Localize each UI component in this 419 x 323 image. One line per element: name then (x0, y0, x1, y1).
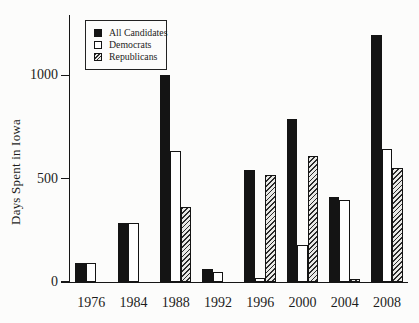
bar-chart-figure: Days Spent in Iowa 050010001976198419881… (0, 0, 419, 323)
y-tick-label-0: 0 (20, 275, 58, 289)
y-tick-mark-1000 (61, 75, 69, 77)
bar-1984-all-candidates (118, 223, 129, 282)
x-tick-label-1988: 1988 (154, 296, 198, 310)
y-tick-label-500: 500 (20, 172, 58, 186)
legend-label: Republicans (109, 52, 157, 62)
bar-2008-all-candidates (371, 35, 382, 282)
bar-2004-republicans (350, 279, 361, 282)
legend: All Candidates Democrats Republicans (85, 20, 167, 70)
x-tick-label-2004: 2004 (323, 296, 367, 310)
legend-label: All Candidates (109, 28, 168, 38)
x-tick-label-1992: 1992 (196, 296, 240, 310)
legend-item-all-candidates: All Candidates (94, 28, 166, 38)
bar-1992-all-candidates (202, 269, 213, 282)
bar-1992-democrats (213, 272, 224, 282)
bar-2008-democrats (382, 149, 393, 282)
bar-2008-republicans (392, 168, 403, 282)
bar-1984-democrats (128, 223, 139, 282)
bar-1996-all-candidates (244, 170, 255, 282)
bar-1996-democrats (255, 278, 266, 282)
x-tick-label-2008: 2008 (365, 296, 409, 310)
solid-black-swatch-icon (94, 29, 102, 37)
hatched-swatch-icon (94, 53, 102, 61)
bar-1988-all-candidates (160, 75, 171, 282)
bar-2000-democrats (297, 245, 308, 282)
y-tick-mark-0 (61, 281, 69, 283)
bar-2000-republicans (308, 156, 319, 282)
legend-label: Democrats (109, 40, 151, 50)
bar-1976-democrats (86, 263, 97, 282)
y-tick-label-1000: 1000 (20, 68, 58, 82)
x-tick-label-1996: 1996 (238, 296, 282, 310)
y-tick-mark-500 (61, 178, 69, 180)
bar-1976-all-candidates (75, 263, 86, 282)
x-tick-label-1976: 1976 (69, 296, 113, 310)
white-outline-swatch-icon (94, 41, 102, 49)
bar-2000-all-candidates (287, 119, 298, 282)
legend-item-democrats: Democrats (94, 40, 166, 50)
x-tick-label-1984: 1984 (111, 296, 155, 310)
bar-2004-democrats (339, 200, 350, 282)
x-tick-label-2000: 2000 (280, 296, 324, 310)
bar-1996-republicans (265, 175, 276, 282)
bar-1988-republicans (181, 207, 192, 282)
bar-1988-democrats (170, 151, 181, 282)
bar-2004-all-candidates (329, 197, 340, 282)
legend-item-republicans: Republicans (94, 52, 166, 62)
